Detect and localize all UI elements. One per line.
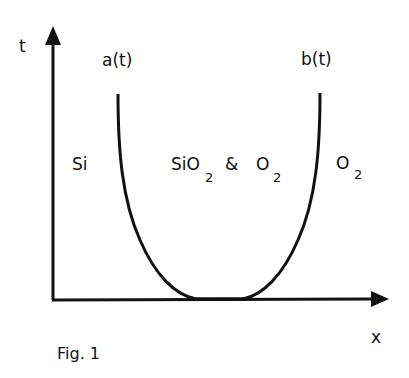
o2-right-text: O	[336, 153, 349, 173]
o2-middle-text: O	[256, 154, 269, 174]
t-axis-arrow-icon	[45, 26, 61, 45]
curve-a	[118, 94, 196, 299]
o2-right-subscript: 2	[354, 167, 362, 182]
figure-diagram: t x a(t) b(t) Si SiO 2 & O 2 O 2 Fig. 1	[0, 0, 409, 378]
ampersand-text: &	[225, 154, 238, 174]
figure-caption: Fig. 1	[57, 344, 100, 363]
region-right-label: O 2	[336, 153, 362, 182]
curve-b-label: b(t)	[301, 49, 332, 69]
o2-middle-subscript: 2	[273, 170, 281, 185]
region-si-label: Si	[72, 154, 88, 174]
x-axis-arrow-icon	[371, 291, 389, 307]
sio-text: SiO	[171, 154, 200, 174]
x-axis-label: x	[371, 327, 381, 347]
region-middle-label: SiO 2 & O 2	[171, 154, 281, 185]
sio-subscript: 2	[205, 170, 213, 185]
curve-b	[243, 93, 320, 299]
curve-a-label: a(t)	[102, 50, 132, 70]
t-axis-label: t	[19, 36, 26, 56]
